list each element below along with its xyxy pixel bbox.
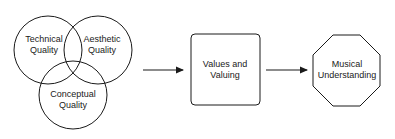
diagram-canvas: Technical Quality Aesthetic Quality Conc…	[0, 0, 395, 139]
conceptual-quality-label: Conceptual Quality	[50, 89, 96, 111]
aesthetic-quality-label: Aesthetic Quality	[83, 34, 120, 56]
values-and-valuing-label: Values and Valuing	[203, 59, 247, 81]
musical-understanding-label: Musical Understanding	[318, 59, 377, 81]
technical-quality-label: Technical Quality	[25, 34, 63, 56]
